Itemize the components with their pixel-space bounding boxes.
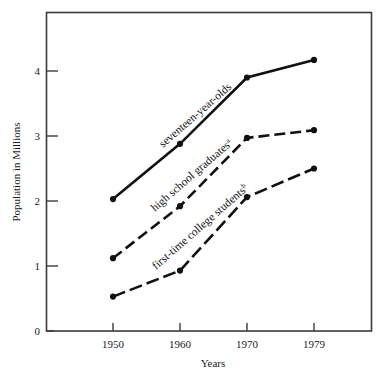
- data-point: [110, 255, 116, 261]
- data-point: [110, 196, 116, 202]
- series-line-0: [113, 60, 314, 199]
- y-tick-label-1: 1: [35, 260, 41, 272]
- data-point: [311, 165, 317, 171]
- data-point: [244, 74, 250, 80]
- y-tick-label-4: 4: [35, 65, 41, 77]
- x-axis-ticks: [113, 323, 314, 331]
- y-tick-label-0: 0: [35, 325, 41, 337]
- x-tick-label-1979: 1979: [303, 338, 326, 350]
- y-axis-title: Population in Millions: [10, 122, 22, 221]
- series-line-2: [113, 169, 314, 297]
- y-tick-label-3: 3: [35, 130, 41, 142]
- data-point: [177, 141, 183, 147]
- x-tick-label-1950: 1950: [102, 338, 125, 350]
- series-inline-labels: seventeen-year-olds high school graduate…: [148, 80, 251, 272]
- y-axis-ticks: [47, 71, 59, 331]
- x-tick-label-1970: 1970: [236, 338, 259, 350]
- x-axis-title: Years: [201, 357, 226, 369]
- data-point: [110, 294, 116, 300]
- data-point: [177, 268, 183, 274]
- y-tick-label-2: 2: [35, 195, 41, 207]
- line-chart: 0 1 2 3 4 1950 1960 1970 1979 Years Popu…: [0, 0, 380, 373]
- chart-container: 0 1 2 3 4 1950 1960 1970 1979 Years Popu…: [0, 0, 380, 373]
- data-point: [177, 203, 183, 209]
- data-point: [244, 135, 250, 141]
- x-tick-label-1960: 1960: [169, 338, 192, 350]
- data-point: [311, 57, 317, 63]
- data-point: [311, 127, 317, 133]
- plot-frame: [47, 13, 372, 332]
